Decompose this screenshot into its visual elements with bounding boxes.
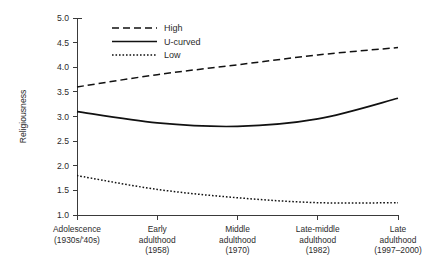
y-tick-label: 5.0 — [57, 13, 69, 23]
x-category-label: Early — [148, 224, 168, 234]
x-category-label: (1958) — [145, 245, 169, 255]
y-tick-label: 4.5 — [57, 38, 69, 48]
x-axis-category-labels: Adolescence(1930s/'40s)Earlyadulthood(19… — [53, 224, 422, 255]
legend-label-u-curved: U-curved — [164, 37, 201, 47]
x-category-label: (1982) — [306, 245, 330, 255]
legend-label-low: Low — [164, 50, 181, 60]
y-tick-label: 2.0 — [57, 161, 69, 171]
religiousness-line-chart: Religiousness 1.01.52.02.53.03.54.04.55.… — [0, 0, 428, 265]
chart-legend: HighU-curvedLow — [112, 23, 201, 60]
x-axis-ticks — [77, 215, 398, 220]
x-category-label: Late — [390, 224, 407, 234]
axis-lines — [77, 18, 398, 215]
y-axis-title: Religiousness — [18, 90, 28, 144]
x-category-label: adulthood — [380, 235, 417, 245]
x-category-label: (1970) — [225, 245, 249, 255]
x-category-label: (1930s/'40s) — [54, 235, 100, 245]
y-tick-label: 1.0 — [57, 210, 69, 220]
series-line-low — [77, 176, 398, 203]
x-category-label: (1997–2000) — [374, 245, 422, 255]
x-category-label: Adolescence — [53, 224, 101, 234]
legend-label-high: High — [164, 23, 183, 33]
y-axis-ticks: 1.01.52.02.53.03.54.04.55.0 — [57, 13, 77, 220]
y-tick-label: 2.5 — [57, 136, 69, 146]
y-tick-label: 3.0 — [57, 112, 69, 122]
x-category-label: adulthood — [299, 235, 336, 245]
x-category-label: adulthood — [139, 235, 176, 245]
series-line-u-curved — [77, 98, 398, 126]
x-category-label: Middle — [225, 224, 250, 234]
data-series-lines — [77, 48, 398, 204]
y-tick-label: 4.0 — [57, 62, 69, 72]
y-axis-title-text: Religiousness — [18, 90, 28, 144]
x-category-label: Late-middle — [296, 224, 340, 234]
x-category-label: adulthood — [219, 235, 256, 245]
y-tick-label: 1.5 — [57, 185, 69, 195]
series-line-high — [77, 48, 398, 87]
chart-figure: Religiousness 1.01.52.02.53.03.54.04.55.… — [0, 0, 428, 265]
y-tick-label: 3.5 — [57, 87, 69, 97]
